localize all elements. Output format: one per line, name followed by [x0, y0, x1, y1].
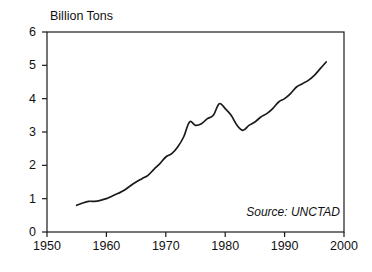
- y-axis-tick-label: 6: [14, 26, 36, 38]
- chart-figure: Billion Tons 0123456 1950196019701980199…: [0, 0, 372, 272]
- chart-plot-area: [0, 0, 372, 272]
- y-axis-tick-label: 4: [14, 93, 36, 105]
- x-axis-tick-label: 2000: [320, 239, 368, 253]
- y-axis-tick-label: 2: [14, 159, 36, 171]
- y-axis-tick-label: 1: [14, 193, 36, 205]
- y-axis-ticks: [42, 32, 47, 232]
- x-axis-tick-label: 1970: [142, 239, 190, 253]
- source-annotation: Source: UNCTAD: [246, 206, 340, 219]
- x-axis-ticks: [47, 232, 344, 237]
- y-axis-tick-label: 5: [14, 59, 36, 71]
- x-axis-tick-label: 1950: [23, 239, 71, 253]
- data-line-series-0: [77, 62, 326, 205]
- x-axis-tick-label: 1980: [201, 239, 249, 253]
- x-axis-tick-label: 1960: [82, 239, 130, 253]
- x-axis-tick-label: 1990: [261, 239, 309, 253]
- y-axis-tick-label: 3: [14, 126, 36, 138]
- y-axis-tick-label: 0: [14, 226, 36, 238]
